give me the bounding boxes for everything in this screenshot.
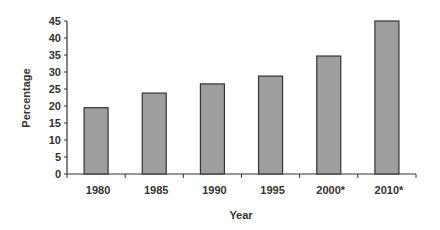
y-tick-label: 10 <box>49 134 61 146</box>
x-tick-label: 2010* <box>375 184 404 196</box>
bar-chart: 051015202530354045 19801985199019952000*… <box>0 0 440 230</box>
y-tick-label: 45 <box>49 15 61 27</box>
y-tick-label: 25 <box>49 83 61 95</box>
bar-1995 <box>259 76 283 174</box>
y-axis: 051015202530354045 <box>49 15 67 180</box>
bar-1980 <box>84 108 108 174</box>
x-axis-title: Year <box>229 209 253 221</box>
y-tick-label: 0 <box>55 168 61 180</box>
x-axis: 19801985199019952000*2010* <box>67 174 416 196</box>
x-tick-label: 1990 <box>202 184 226 196</box>
y-tick-label: 35 <box>49 49 61 61</box>
bar-2010 <box>375 21 399 174</box>
x-tick-label: 1985 <box>144 184 168 196</box>
bar-1985 <box>142 93 166 174</box>
y-tick-label: 30 <box>49 66 61 78</box>
y-tick-label: 5 <box>55 151 61 163</box>
x-tick-label: 1980 <box>86 184 110 196</box>
bar-2000 <box>317 56 341 174</box>
bars <box>84 21 399 174</box>
y-tick-label: 15 <box>49 117 61 129</box>
y-tick-label: 20 <box>49 100 61 112</box>
y-axis-title: Percentage <box>20 68 32 127</box>
bar-1990 <box>200 84 224 174</box>
x-tick-label: 2000* <box>316 184 345 196</box>
x-tick-label: 1995 <box>260 184 284 196</box>
y-tick-label: 40 <box>49 32 61 44</box>
